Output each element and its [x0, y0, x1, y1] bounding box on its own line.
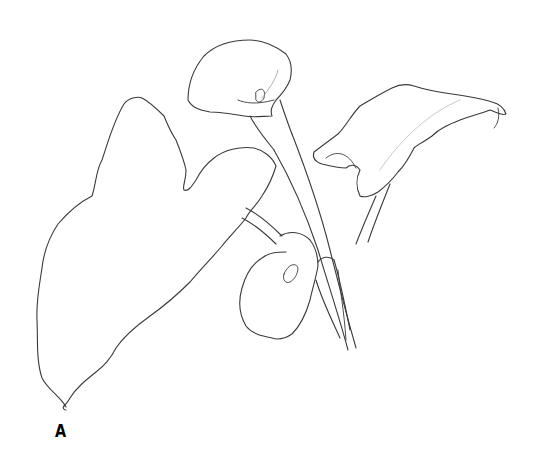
right-leaf-outline [313, 85, 506, 197]
lower-flower-spathe [240, 233, 318, 339]
main-stem [274, 150, 348, 350]
calla-lily-drawing [0, 0, 541, 472]
left-leaf-outline [37, 97, 276, 407]
figure-label: A [55, 421, 66, 441]
top-flower-spathe [188, 40, 291, 117]
